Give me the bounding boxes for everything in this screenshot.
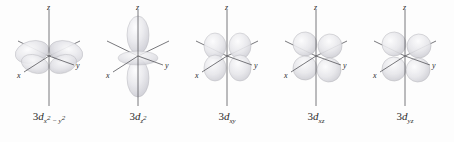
- axis-label-y: y: [342, 61, 347, 70]
- orbital-panel-3d-yz: z x y 3dyz: [360, 0, 450, 142]
- orbital-label-3d-xz: 3dxz: [271, 110, 361, 126]
- axis-label-x: x: [194, 71, 199, 80]
- orbital-label-sup-1: 2: [143, 114, 147, 122]
- axis-label-y: y: [253, 61, 258, 70]
- axis-label-y: y: [75, 61, 80, 70]
- orbital-label-3d-x2-y2: 3dx2 − y2: [4, 110, 94, 126]
- orbital-label-sub-xz: xz: [319, 117, 325, 125]
- orbital-label-3d-yz: 3dyz: [360, 110, 450, 126]
- axis-label-y: y: [431, 61, 436, 70]
- axis-label-x: x: [16, 71, 21, 80]
- axis-label-z: z: [313, 3, 318, 12]
- orbital-label-sub-xy: xy: [229, 117, 235, 125]
- orbital-label-minus: −: [52, 117, 57, 125]
- orbital-lobe: [229, 55, 251, 81]
- orbital-diagram-3d-x2-y2: z x y: [4, 2, 94, 110]
- orbital-panel-3d-xz: z x y 3dxz: [271, 0, 361, 142]
- orbital-figure: z x y 3dx2 − y2: [0, 0, 454, 142]
- orbital-label-3d-xy: 3dxy: [182, 110, 272, 126]
- axis-label-x: x: [372, 71, 377, 80]
- axis-label-x: x: [105, 71, 110, 80]
- axis-label-z: z: [135, 3, 140, 12]
- orbital-diagram-3d-z2: z x y: [93, 2, 183, 110]
- orbital-lobe: [290, 29, 320, 59]
- axis-label-x: x: [283, 71, 288, 80]
- axis-label-z: z: [402, 3, 407, 12]
- orbital-panel-3d-z2: z x y 3dz2: [93, 0, 183, 142]
- orbital-label-3d-z2: 3dz2: [93, 110, 183, 126]
- axis-label-z: z: [46, 3, 51, 12]
- orbital-lobe: [315, 31, 345, 61]
- orbital-lobe: [403, 55, 434, 86]
- orbital-lobe: [290, 53, 320, 83]
- orbital-diagram-3d-yz: z x y: [360, 2, 450, 110]
- orbital-label-sup-2: 2: [62, 114, 66, 122]
- orbital-label-sub-yz: yz: [408, 117, 414, 125]
- orbital-diagram-3d-xz: z x y: [271, 2, 361, 110]
- orbital-panel-3d-xy: z x y 3dxy: [182, 0, 272, 142]
- axis-label-z: z: [224, 3, 229, 12]
- orbital-diagram-3d-xy: z x y: [182, 2, 272, 110]
- orbital-panel-3d-x2-y2: z x y 3dx2 − y2: [4, 0, 94, 142]
- axis-label-y: y: [164, 61, 169, 70]
- orbital-label-sup-1: 2: [47, 114, 51, 122]
- orbital-lobe: [314, 55, 344, 85]
